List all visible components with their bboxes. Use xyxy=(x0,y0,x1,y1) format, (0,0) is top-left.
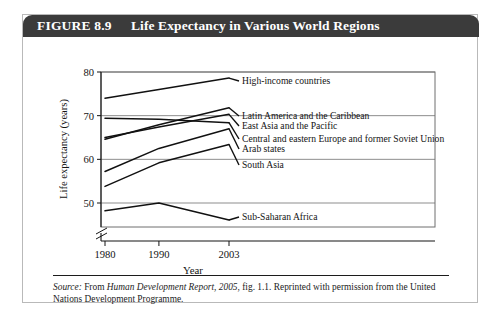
y-tick-label: 60 xyxy=(83,154,94,165)
x-tick-label: 2003 xyxy=(218,249,239,260)
label-leader-line xyxy=(229,78,239,81)
series-label: High-income countries xyxy=(242,75,330,86)
line-chart: 50607080 198019902003 High-income countr… xyxy=(23,37,479,304)
figure-title: Life Expectancy in Various World Regions xyxy=(131,18,380,34)
chart-area: 50607080 198019902003 High-income countr… xyxy=(23,37,479,304)
series-label: Sub-Saharan Africa xyxy=(242,211,318,222)
series-labels-group: High-income countriesLatin America and t… xyxy=(229,75,444,222)
label-leader-line xyxy=(229,108,239,116)
series-line xyxy=(105,78,229,98)
source-label: Source: xyxy=(53,282,82,292)
y-axis-label: Life expectancy (years) xyxy=(58,99,70,199)
source-divider xyxy=(53,275,449,276)
source-note: Source: From Human Development Report, 2… xyxy=(53,281,455,306)
y-tick-label: 50 xyxy=(83,198,94,209)
data-series-group xyxy=(105,78,229,220)
series-label: Arab states xyxy=(242,143,285,154)
figure-number: FIGURE 8.9 xyxy=(37,18,112,34)
series-line xyxy=(105,144,229,186)
source-work-title: Human Development Report, 2005 xyxy=(107,282,238,292)
series-label: East Asia and the Pacific xyxy=(242,120,337,131)
label-leader-line xyxy=(229,217,239,220)
series-line xyxy=(105,129,229,172)
source-text-before: From xyxy=(82,282,107,292)
y-tick-label: 80 xyxy=(83,67,94,78)
figure-header-bar: FIGURE 8.9 Life Expectancy in Various Wo… xyxy=(23,15,479,37)
x-axis-ticks: 198019902003 xyxy=(94,241,239,260)
x-tick-label: 1990 xyxy=(148,249,169,260)
y-tick-label: 70 xyxy=(83,111,94,122)
label-leader-line xyxy=(229,144,239,165)
x-tick-label: 1980 xyxy=(94,249,115,260)
figure-container: FIGURE 8.9 Life Expectancy in Various Wo… xyxy=(22,14,478,303)
y-axis-ticks: 50607080 xyxy=(83,67,101,209)
series-line xyxy=(105,203,229,220)
series-label: South Asia xyxy=(242,159,285,170)
series-line xyxy=(105,118,229,122)
